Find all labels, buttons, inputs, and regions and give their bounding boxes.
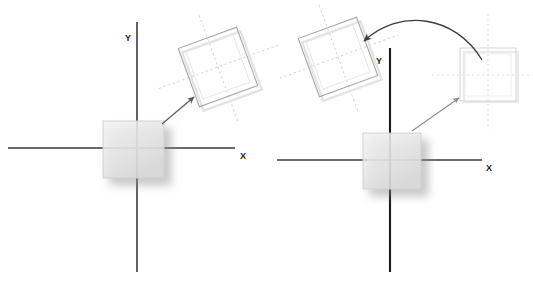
transformation-figure: X Y [0, 0, 533, 282]
right-rotated-guide-axes [261, 0, 418, 133]
left-original-square [103, 121, 164, 178]
left-y-axis-label: Y [125, 33, 131, 43]
translated-square-ghost-outline [464, 52, 518, 102]
left-x-axis-label: X [240, 151, 246, 161]
figure-canvas: X Y [0, 0, 533, 282]
left-panel: X Y [8, 0, 299, 272]
right-x-axis-label: X [486, 163, 492, 173]
original-square-body [103, 121, 164, 178]
right-panel: X Y [261, 0, 533, 272]
right-original-square [363, 133, 421, 189]
right-y-axis-label: Y [376, 56, 382, 66]
right-translate-arrow [412, 98, 459, 131]
original-square-body [363, 133, 421, 189]
left-transform-arrow [162, 97, 194, 124]
